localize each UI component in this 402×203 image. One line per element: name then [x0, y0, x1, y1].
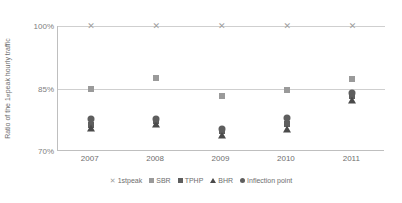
- plot-area: 100%85%70% ✕✕✕✕✕: [57, 26, 384, 151]
- y-axis-title-prefix: Ratio of the 1: [4, 97, 11, 139]
- legend-label: SBR: [156, 177, 170, 184]
- x-tick-label-2011: 2011: [343, 154, 360, 163]
- legend-item-tphp[interactable]: TPHP: [178, 177, 204, 184]
- y-tick-label-100: 100%: [34, 22, 54, 31]
- legend-label: 1stpeak: [118, 177, 143, 184]
- y-axis-title: Ratio of the 1st peak hourly traffic: [2, 26, 13, 151]
- data-point-inflection-point-2009: [218, 125, 225, 132]
- data-point-sbr-2010: [284, 87, 290, 93]
- x-tick-label-2008: 2008: [146, 154, 164, 163]
- data-point-sbr-2011: [349, 76, 355, 82]
- square-light-icon: [149, 178, 154, 183]
- data-point-inflection-point-2010: [283, 114, 290, 121]
- x-tick-label-2009: 2009: [212, 154, 230, 163]
- x-tick-label-2010: 2010: [277, 154, 295, 163]
- data-point-inflection-point-2011: [349, 89, 356, 96]
- data-point-1stpeak-2007: ✕: [87, 23, 94, 30]
- y-axis-title-superscript: st: [5, 93, 11, 97]
- triangle-icon: [210, 178, 216, 183]
- data-point-sbr-2007: [88, 86, 94, 92]
- data-point-inflection-point-2008: [153, 116, 160, 123]
- data-point-bhr-2010: [283, 126, 291, 133]
- y-axis-title-suffix: peak hourly traffic: [4, 38, 11, 93]
- cross-icon: ✕: [110, 178, 116, 184]
- data-point-inflection-point-2007: [87, 116, 94, 123]
- legend-label: TPHP: [185, 177, 204, 184]
- legend-item-bhr[interactable]: BHR: [210, 177, 233, 184]
- gridline-85: [58, 89, 385, 90]
- y-tick-label-70: 70%: [38, 147, 54, 156]
- circle-icon: [240, 178, 245, 183]
- data-point-sbr-2008: [153, 75, 159, 81]
- data-point-1stpeak-2009: ✕: [218, 23, 225, 30]
- legend-item-sbr[interactable]: SBR: [149, 177, 170, 184]
- data-point-1stpeak-2011: ✕: [349, 23, 356, 30]
- legend-item-inflection-point[interactable]: Inflection point: [240, 177, 292, 184]
- data-point-bhr-2009: [218, 132, 226, 139]
- data-point-sbr-2009: [219, 93, 225, 99]
- chart-legend: ✕1stpeakSBRTPHPBHRInflection point: [0, 177, 402, 184]
- square-dark-icon: [178, 178, 183, 183]
- data-point-bhr-2011: [348, 96, 356, 103]
- data-point-bhr-2007: [87, 124, 95, 131]
- x-tick-label-2007: 2007: [81, 154, 99, 163]
- scatter-chart: Ratio of the 1st peak hourly traffic 100…: [0, 0, 402, 203]
- legend-label: BHR: [218, 177, 233, 184]
- data-point-1stpeak-2010: ✕: [283, 23, 290, 30]
- legend-item-1stpeak[interactable]: ✕1stpeak: [110, 177, 143, 184]
- data-point-1stpeak-2008: ✕: [153, 23, 160, 30]
- y-tick-label-85: 85%: [38, 84, 54, 93]
- legend-label: Inflection point: [247, 177, 292, 184]
